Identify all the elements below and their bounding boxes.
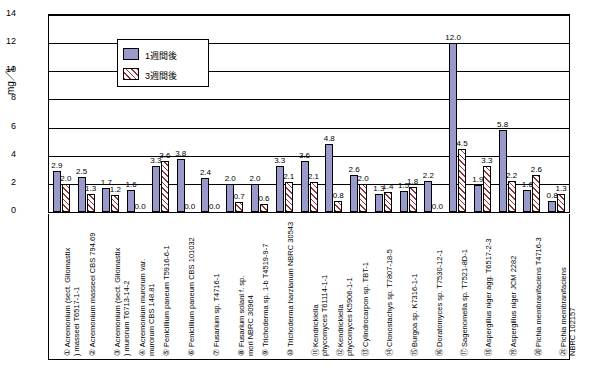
x-axis-label-line: ) murorum T6713-14-2: [122, 248, 131, 356]
bar-3week: [483, 166, 491, 212]
x-axis-label-line: ⑫ Kendrickiella: [337, 277, 346, 356]
bar-value-label-1week: 2.4: [196, 169, 214, 177]
x-axis-category-label: ⑳ Pichia membranifaciens T4716-3: [535, 237, 544, 356]
bar-3week: [384, 192, 392, 212]
x-axis-label-line: ⑩ Trichoderma harzianum NBRC 30543: [287, 222, 296, 356]
x-axis-label-line: ⑮ Burgoa sp. K7316-1-1: [411, 274, 420, 356]
bar-1week: [548, 201, 556, 212]
x-axis-labels: ① Acremonium (sect. Gliomastix) masseei …: [48, 216, 570, 376]
x-axis-label-line: ⑲ Aspergillus niger JCM 2282: [510, 256, 519, 356]
bar-value-label-3week: 4.5: [453, 140, 471, 148]
y-axis-tick-label: 6: [0, 122, 16, 131]
bar-value-label-3week: 2.6: [527, 166, 545, 174]
bar-3week: [508, 181, 516, 212]
bar-1week: [78, 177, 86, 212]
bar-hatch-pattern: [311, 183, 317, 211]
bar-hatch-pattern: [286, 183, 292, 211]
bar-1week: [301, 161, 309, 212]
bar-3week: [557, 194, 565, 212]
bar-value-label-3week: 3.3: [478, 157, 496, 165]
bar-3week: [260, 204, 268, 212]
x-axis-label-line: ) masseei T6517-1-1: [73, 248, 82, 356]
y-axis-tick-label: 10: [0, 65, 16, 74]
bar-hatch-pattern: [63, 185, 69, 211]
bar-3week: [532, 175, 540, 212]
bar-1week: [152, 166, 160, 212]
bar-1week: [474, 185, 482, 212]
bar-1week: [449, 43, 457, 212]
x-axis-category-label: ⑨ Trichoderma sp. 1-b T4519-9-7: [262, 244, 271, 356]
bar-value-label-3week: 1.3: [552, 185, 570, 193]
bar-value-label-1week: 2.9: [48, 162, 66, 170]
bar-hatch-pattern: [484, 167, 490, 211]
bar-value-label-1week: 4.8: [320, 135, 338, 143]
bar-value-label-1week: 3.6: [296, 152, 314, 160]
bar-hatch-pattern: [88, 195, 94, 211]
bar-3week: [409, 187, 417, 212]
x-axis-category-label: ⑰ Sagenomella sp. T7521-8D-1: [461, 249, 470, 356]
x-axis-category-label: ⑱ Aspergillus niger agg. T6517-2-3: [485, 239, 494, 356]
x-axis-category-label: ⑦ Fusarium sp. T4716-1: [213, 274, 222, 356]
bar-value-label-3week: 0.0: [131, 203, 149, 211]
x-axis-label-line: NBRC 102157: [568, 267, 577, 356]
legend: 1週間後 3週間後: [117, 39, 209, 87]
bar-value-label-1week: 3.3: [271, 157, 289, 165]
bar-hatch-pattern: [162, 162, 168, 211]
bar-value-label-1week: 1.6: [122, 181, 140, 189]
legend-label-3week: 3週間後: [145, 69, 177, 82]
bar-3week: [111, 195, 119, 212]
bar-3week: [334, 201, 342, 212]
x-axis-label-line: ⑭ Clonostachys sp. T7807-18-5: [386, 249, 395, 356]
x-axis-category-label: ⑤ Penicillium paneum T5916-6-1: [163, 245, 172, 356]
bar-value-label-3week: 0.6: [255, 195, 273, 203]
bar-1week: [375, 194, 383, 212]
x-axis-label-line: ⑳ Pichia membranifaciens T4716-3: [535, 237, 544, 356]
bar-3week: [359, 184, 367, 212]
x-axis-label-line: ㉑ Pichia membranifaciens: [560, 267, 569, 356]
legend-label-1week: 1週間後: [145, 49, 177, 62]
x-axis-category-label: ⑩ Trichoderma harzianum NBRC 30543: [287, 222, 296, 356]
y-axis-tick-label: 14: [0, 9, 16, 18]
bar-3week: [310, 182, 318, 212]
x-axis-category-label: ⑬ Cylindrocarpon sp. TBT-1: [362, 262, 371, 356]
bar-hatch-pattern: [236, 203, 242, 211]
bar-value-label-3week: 2.0: [57, 175, 75, 183]
bar-value-label-3week: 2.1: [280, 173, 298, 181]
x-axis-category-label: ④ Acremonium murorum var.murorum CBS 148…: [139, 259, 156, 356]
x-axis-category-label: ⑪ Kendrickiellaphycomyces T61114-1-1: [312, 275, 329, 356]
bar-1week: [523, 190, 531, 213]
bar-value-label-1week: 5.8: [494, 121, 512, 129]
x-axis-label-line: ⑬ Cylindrocarpon sp. TBT-1: [362, 262, 371, 356]
bar-1week: [400, 191, 408, 212]
x-axis-category-label: ㉑ Pichia membranifaciensNBRC 102157: [560, 267, 577, 356]
x-axis-label-line: ② Acremonium masseei CBS 794.69: [89, 233, 98, 356]
x-axis-label-line: ⑯ Doratomyces sp. T7530-12-1: [436, 250, 445, 356]
x-axis-label-line: phycomyces K5906-1-1: [345, 277, 354, 356]
bar-hatch-pattern: [385, 193, 391, 211]
y-axis-tick-label: 12: [0, 37, 16, 46]
plot-area: 2.92.02.51.31.71.21.60.03.33.63.80.02.40…: [48, 14, 570, 213]
x-axis-category-label: ⑫ Kendrickiellaphycomyces K5906-1-1: [337, 277, 354, 356]
x-axis-category-label: ⑮ Burgoa sp. K7316-1-1: [411, 274, 420, 356]
bar-value-label-3week: 0.8: [329, 192, 347, 200]
bar-hatch-pattern: [261, 205, 267, 211]
x-axis-label-line: ⑨ Trichoderma sp. 1-b T4519-9-7: [262, 244, 271, 356]
bar-1week: [325, 144, 333, 212]
bar-value-label-1week: 12.0: [444, 34, 462, 42]
bar-hatch-pattern: [335, 202, 341, 211]
legend-swatch-3week-icon: [123, 68, 139, 80]
bar-3week: [235, 202, 243, 212]
bar-hatch-pattern: [509, 182, 515, 211]
bar-value-label-3week: 2.0: [354, 175, 372, 183]
x-axis-category-label: ⑥ Penicillium paneum CBS 101032: [188, 237, 197, 356]
x-axis-label-line: mori NBRC 30964: [246, 276, 255, 356]
x-axis-category-label: ⑧ Fusarium solani f. sp.mori NBRC 30964: [238, 276, 255, 356]
x-axis-category-label: ① Acremonium (sect. Gliomastix) masseei …: [64, 248, 81, 356]
bar-hatch-pattern: [410, 188, 416, 211]
legend-swatch-1week-icon: [123, 48, 139, 60]
bar-value-label-3week: 0.7: [230, 193, 248, 201]
bar-3week: [161, 161, 169, 212]
x-axis-label-line: ⑱ Aspergillus niger agg. T6517-2-3: [485, 239, 494, 356]
bar-hatch-pattern: [459, 150, 465, 211]
x-axis-label-line: ④ Acremonium murorum var.: [139, 259, 148, 356]
